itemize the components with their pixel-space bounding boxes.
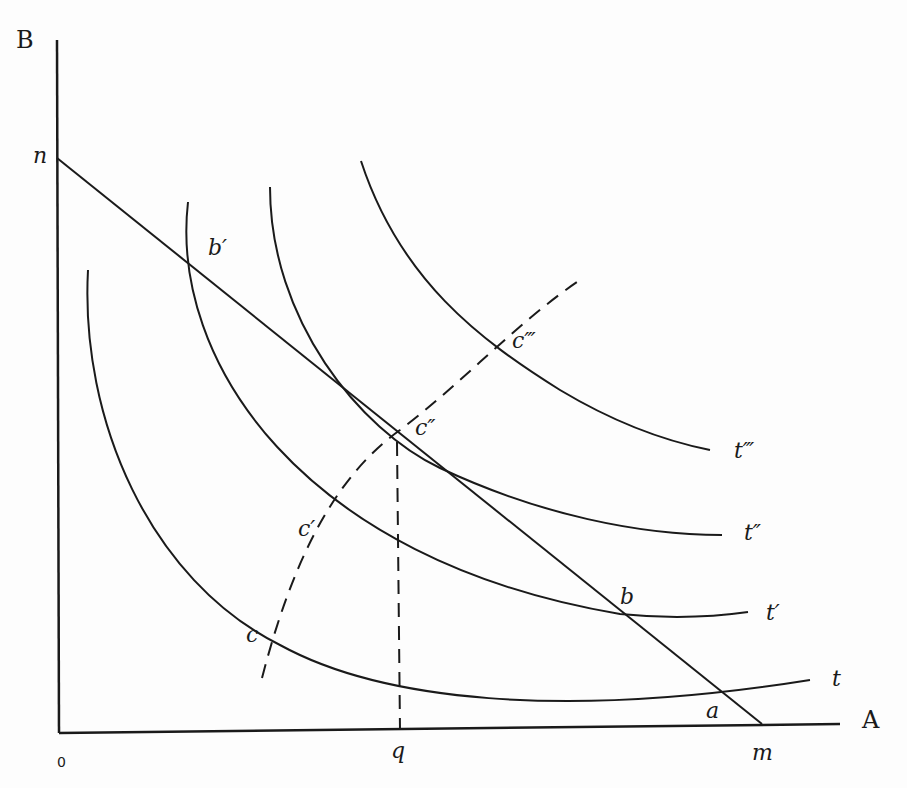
point-label-c-double-prime: c″ (415, 417, 436, 439)
indifference-curve-t-prime (186, 202, 748, 617)
point-label-b-prime: b′ (208, 237, 227, 259)
point-label-c: c (246, 624, 258, 646)
budget-intercept-n: n (33, 145, 47, 167)
point-label-c-prime: c′ (298, 518, 315, 540)
x-axis-label: A (862, 708, 879, 732)
point-label-a: a (706, 700, 719, 722)
indifference-curve-t (87, 270, 810, 701)
budget-intercept-m: m (752, 742, 773, 764)
q-marker-label: q (391, 740, 405, 762)
point-label-b: b (620, 586, 634, 608)
y-axis-label: B (16, 28, 34, 52)
origin-label: 0 (57, 755, 66, 769)
figure-caption (450, 772, 570, 786)
curve-label-t-triple-prime: t‴ (734, 440, 754, 462)
indifference-curve-t-double-prime (270, 187, 722, 535)
curve-label-t: t (832, 668, 841, 690)
budget-line (57, 158, 762, 724)
curve-label-t-double-prime: t″ (744, 522, 761, 544)
y-axis (57, 40, 59, 733)
curve-label-t-prime: t′ (766, 602, 780, 624)
x-axis (59, 724, 840, 733)
diagram-svg (0, 0, 907, 788)
diagram-canvas: B A 0 n m q t t′ t″ t‴ a b b′ c c′ c″ c‴ (0, 0, 907, 788)
point-label-c-triple-prime: c‴ (512, 330, 536, 352)
indifference-curve-t-triple-prime (361, 161, 710, 450)
